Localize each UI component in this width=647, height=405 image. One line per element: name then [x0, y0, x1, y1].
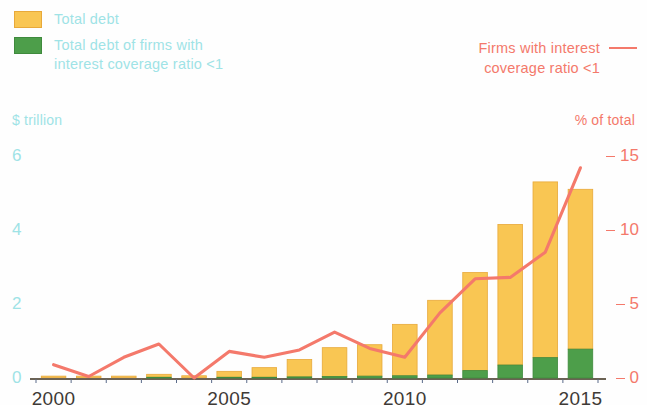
- bar-total-debt: [147, 374, 172, 377]
- y-axis-left-tick: 4: [12, 220, 34, 240]
- bar-total-debt: [533, 182, 558, 358]
- y-axis-right-tick: 0: [599, 368, 639, 388]
- bar-total-debt: [287, 360, 312, 377]
- bar-total-debt: [568, 189, 593, 349]
- bar-icr-debt: [463, 371, 488, 378]
- bar-total-debt: [252, 368, 277, 378]
- bar-icr-debt: [357, 376, 382, 378]
- y-axis-right-tick: 10: [599, 220, 639, 240]
- bar-total-debt: [498, 224, 523, 365]
- bar-total-debt: [217, 371, 242, 377]
- bar-total-debt: [322, 348, 347, 377]
- x-axis-tick-label: 2015: [559, 388, 603, 405]
- bar-icr-debt: [568, 349, 593, 378]
- bar-icr-debt: [533, 358, 558, 378]
- x-axis-tick-label: 2005: [207, 388, 251, 405]
- bar-icr-debt: [322, 377, 347, 378]
- bar-icr-debt: [147, 377, 172, 378]
- bar-icr-debt: [217, 377, 242, 378]
- bar-total-debt: [41, 376, 66, 378]
- x-axis-tick-label: 2000: [32, 388, 76, 405]
- y-axis-right-tick: 5: [599, 294, 639, 314]
- bar-icr-debt: [287, 377, 312, 378]
- y-axis-left-tick: 0: [12, 368, 34, 388]
- bar-total-debt: [112, 376, 137, 378]
- bar-icr-debt: [498, 365, 523, 378]
- plot-svg: [0, 0, 647, 405]
- bar-total-debt: [393, 324, 418, 375]
- bar-icr-debt: [252, 377, 277, 378]
- bar-icr-debt: [428, 375, 453, 378]
- y-axis-left-tick: 6: [12, 146, 34, 166]
- y-axis-left-tick: 2: [12, 294, 34, 314]
- chart-container: Total debt Total debt of firms with inte…: [0, 0, 647, 405]
- x-axis-tick-label: 2010: [383, 388, 427, 405]
- bar-icr-debt: [393, 376, 418, 378]
- plot-area: 02460510152000200520102015: [0, 0, 647, 405]
- y-axis-right-tick: 15: [599, 146, 639, 166]
